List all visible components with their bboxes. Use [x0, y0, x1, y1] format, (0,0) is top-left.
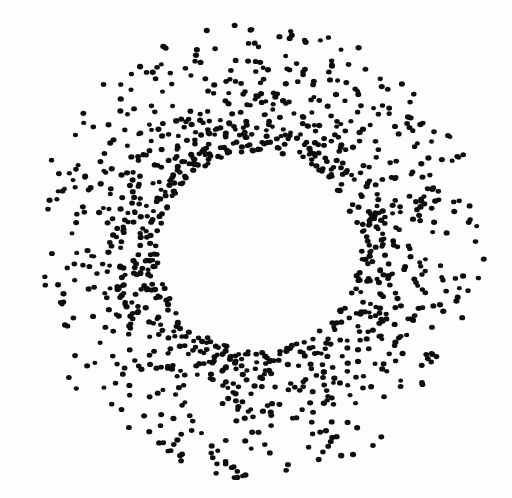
annular-scatter-plot [0, 0, 512, 498]
scatter-figure [0, 0, 512, 498]
